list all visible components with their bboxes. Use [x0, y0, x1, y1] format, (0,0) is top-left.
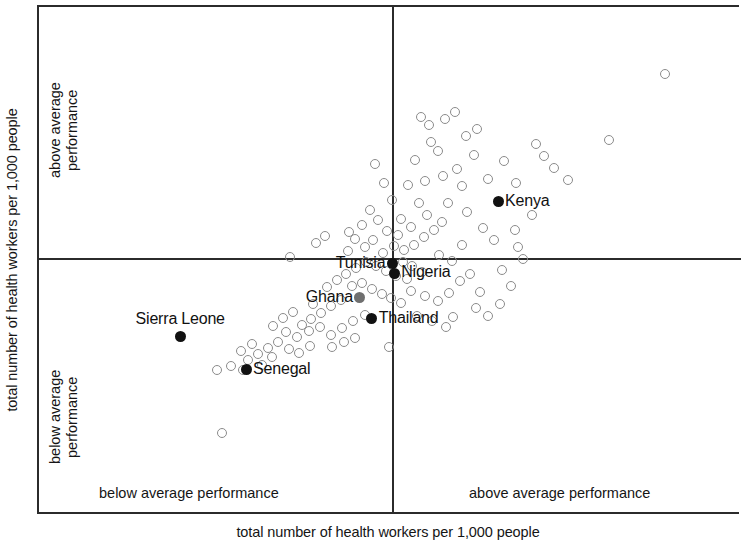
- data-point-open: [292, 332, 302, 342]
- data-point-open: [217, 428, 227, 438]
- data-point-nigeria: [389, 268, 400, 279]
- data-point-open: [316, 308, 326, 318]
- quadrant-label-y-below-average: below average performance: [47, 327, 80, 507]
- data-point-senegal: [241, 364, 252, 375]
- data-point-open: [478, 223, 488, 233]
- data-point-label-tunisia: Tunisia: [336, 254, 386, 272]
- data-point-open: [382, 226, 392, 236]
- data-point-open: [660, 69, 670, 79]
- data-point-open: [396, 298, 406, 308]
- data-point-open: [367, 284, 377, 294]
- data-point-label-sierra-leone: Sierra Leone: [136, 310, 225, 328]
- data-point-thailand: [366, 313, 377, 324]
- data-point-open: [357, 278, 367, 288]
- quadrant-label-y-below-line2: performance: [64, 376, 80, 457]
- data-point-open: [339, 337, 349, 347]
- data-point-open: [326, 330, 336, 340]
- data-point-open: [452, 164, 462, 174]
- data-point-open: [539, 151, 549, 161]
- data-point-open: [386, 293, 396, 303]
- data-point-open: [433, 296, 443, 306]
- data-point-open: [373, 215, 383, 225]
- data-point-open: [406, 286, 416, 296]
- data-point-open: [278, 313, 288, 323]
- data-point-open: [518, 254, 528, 264]
- quadrant-label-x-above-average: above average performance: [469, 485, 650, 502]
- data-point-kenya: [493, 196, 504, 207]
- data-point-open: [281, 327, 291, 337]
- data-point-open: [420, 176, 430, 186]
- data-point-open: [320, 231, 330, 241]
- data-point-open: [348, 316, 358, 326]
- quadrant-label-y-above-line1: above average: [47, 82, 63, 178]
- y-axis-title: total number of health workers per 1,000…: [0, 0, 24, 520]
- data-point-open: [370, 159, 380, 169]
- data-point-open: [483, 174, 493, 184]
- data-point-label-kenya: Kenya: [505, 192, 549, 210]
- data-point-open: [393, 230, 403, 240]
- data-point-open: [288, 307, 298, 317]
- data-point-open: [396, 214, 406, 224]
- data-point-open: [377, 289, 387, 299]
- data-point-open: [360, 242, 370, 252]
- data-point-open: [399, 245, 409, 255]
- data-point-open: [403, 180, 413, 190]
- data-point-open: [433, 146, 443, 156]
- data-point-open: [483, 311, 493, 321]
- data-point-open: [506, 281, 516, 291]
- data-point-open: [327, 342, 337, 352]
- data-point-open: [440, 114, 450, 124]
- data-point-open: [438, 171, 448, 181]
- data-point-open: [332, 275, 342, 285]
- data-point-open: [315, 322, 325, 332]
- data-point-open: [429, 225, 439, 235]
- data-point-open: [268, 321, 278, 331]
- data-point-open: [420, 291, 430, 301]
- quadrant-label-y-above-average: above average performance: [47, 35, 80, 225]
- data-point-open: [306, 314, 316, 324]
- data-point-open: [419, 232, 429, 242]
- quadrant-label-x-below-average: below average performance: [99, 485, 279, 502]
- data-point-open: [294, 348, 304, 358]
- data-point-open: [350, 333, 360, 343]
- data-point-open: [455, 276, 465, 286]
- data-point-open: [424, 120, 434, 130]
- data-point-open: [604, 135, 614, 145]
- data-point-open: [337, 323, 347, 333]
- plot-area: above average performance below average …: [37, 5, 739, 514]
- data-point-open: [253, 349, 263, 359]
- data-point-open: [437, 217, 447, 227]
- data-point-open: [357, 220, 367, 230]
- data-point-open: [444, 288, 454, 298]
- data-point-open: [226, 361, 236, 371]
- data-point-open: [406, 222, 416, 232]
- data-point-open: [549, 163, 559, 173]
- data-point-open: [448, 312, 458, 322]
- data-point-open: [284, 344, 294, 354]
- data-point-open: [531, 139, 541, 149]
- data-point-open: [472, 124, 482, 134]
- data-point-open: [563, 175, 573, 185]
- data-point-open: [495, 299, 505, 309]
- data-point-open: [441, 322, 451, 332]
- data-point-open: [410, 155, 420, 165]
- data-point-open: [443, 198, 453, 208]
- data-point-open: [527, 210, 537, 220]
- data-point-open: [285, 252, 295, 262]
- data-point-open: [465, 269, 475, 279]
- x-axis-title: total number of health workers per 1,000…: [38, 524, 738, 540]
- data-point-label-nigeria: Nigeria: [401, 263, 450, 281]
- data-point-open: [489, 235, 499, 245]
- data-point-open: [304, 326, 314, 336]
- data-point-open: [236, 346, 246, 356]
- data-point-open: [305, 341, 315, 351]
- data-point-open: [469, 150, 479, 160]
- data-point-open: [368, 235, 378, 245]
- data-point-open: [416, 112, 426, 122]
- data-point-open: [475, 287, 485, 297]
- data-point-open: [389, 241, 399, 251]
- data-point-open: [510, 225, 520, 235]
- data-point-open: [409, 240, 419, 250]
- data-point-open: [462, 207, 472, 217]
